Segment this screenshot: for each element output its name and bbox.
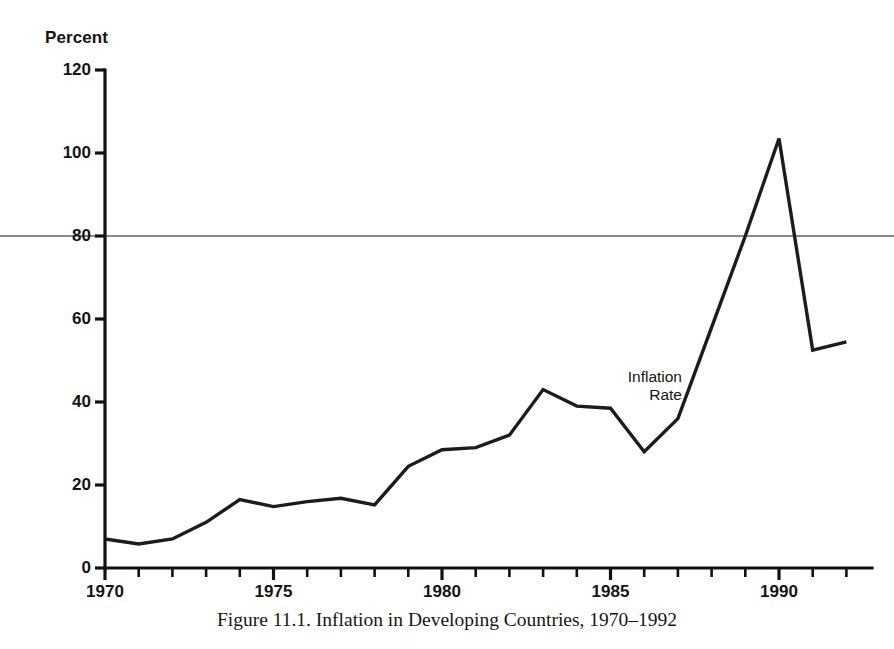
y-tick-label-40: 40 <box>35 393 91 410</box>
y-tick-label-20: 20 <box>35 476 91 493</box>
y-tick-label-80: 80 <box>35 227 91 244</box>
y-tick-label-60: 60 <box>35 310 91 327</box>
y-tick-label-100: 100 <box>35 144 91 161</box>
annotation-line-2: Rate <box>592 386 682 404</box>
x-tick-label-1990: 1990 <box>744 583 814 600</box>
x-tick-label-1980: 1980 <box>407 583 477 600</box>
x-tick-label-1985: 1985 <box>576 583 646 600</box>
figure-caption: Figure 11.1. Inflation in Developing Cou… <box>0 609 894 631</box>
y-tick-label-0: 0 <box>35 559 91 576</box>
x-tick-label-1970: 1970 <box>70 583 140 600</box>
x-axis-ticks <box>105 568 846 580</box>
y-tick-label-120: 120 <box>35 61 91 78</box>
inflation-rate-line <box>105 138 846 543</box>
series-annotation-inflation-rate: Inflation Rate <box>592 368 682 404</box>
figure-container: Percent 020406080100120 1970197519801985… <box>0 0 894 649</box>
annotation-line-1: Inflation <box>592 368 682 386</box>
x-tick-label-1975: 1975 <box>239 583 309 600</box>
chart-plot-area <box>0 0 894 600</box>
